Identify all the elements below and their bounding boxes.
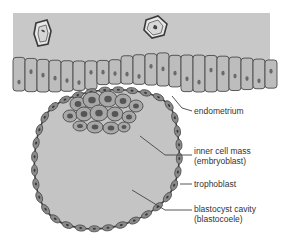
label-trophoblast: trophoblast (194, 179, 236, 189)
blastocyst (31, 87, 182, 232)
endometrium-leader-line (172, 96, 192, 111)
label-line: endometrium (194, 106, 244, 116)
label-blastocyst-cavity: blastocyst cavity (blastocoele) (194, 204, 256, 224)
label-line: blastocyst cavity (194, 204, 256, 214)
label-inner-cell-mass: inner cell mass (embryoblast) (194, 146, 251, 166)
label-line: (embryoblast) (194, 156, 251, 166)
label-line: inner cell mass (194, 146, 251, 156)
stromal-gland-left (34, 20, 51, 46)
label-endometrium: endometrium (194, 106, 244, 116)
label-line: trophoblast (194, 179, 236, 189)
label-line: (blastocoele) (194, 214, 256, 224)
